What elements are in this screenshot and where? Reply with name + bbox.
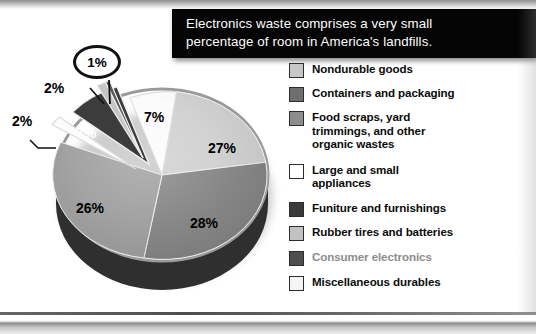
pie-label-food-scraps: 26% [76, 200, 104, 216]
legend-swatch-icon-rubber-tires-batteries [289, 226, 304, 241]
legend-swatch-icon-consumer-electronics [289, 251, 304, 266]
leader-line-miscellaneous-durables [30, 140, 56, 148]
legend-item-consumer-electronics: Consumer electronics [289, 250, 519, 266]
legend-label-nondurable-goods: Nondurable goods [312, 62, 413, 76]
pie-label-rubber-tires-batteries: 2% [44, 80, 64, 96]
legend-item-rubber-tires-batteries: Rubber tires and batteries [289, 225, 519, 241]
pie-callout-consumer-electronics: 1% [73, 45, 121, 79]
title-banner: Electronics waste comprises a very small… [172, 9, 536, 58]
page-bottom-edge-shadow [0, 320, 536, 334]
legend-label-containers-packaging: Containers and packaging [312, 86, 455, 100]
legend-swatch-icon-large-small-appliances [289, 164, 304, 179]
legend-item-nondurable-goods: Nondurable goods [289, 62, 519, 78]
pie-label-funiture-furnishings: 7% [76, 125, 96, 141]
pie-label-miscellaneous-durables: 2% [12, 113, 32, 129]
leader-line-consumer-electronics [109, 80, 110, 104]
banner-line-1: Electronics waste comprises a very small [186, 15, 516, 33]
legend-swatch-icon-miscellaneous-durables [289, 276, 304, 291]
chart-legend: Nondurable goods Containers and packagin… [289, 62, 519, 299]
legend-swatch-icon-nondurable-goods [289, 63, 304, 78]
legend-item-food-scraps: Food scraps, yard trimmings, and other o… [289, 110, 519, 151]
legend-item-containers-packaging: Containers and packaging [289, 86, 519, 102]
pie-label-large-small-appliances: 7% [144, 109, 164, 125]
pie-label-nondurable-goods: 27% [208, 140, 236, 156]
legend-item-funiture-furnishings: Funiture and furnishings [289, 201, 519, 217]
banner-text: Electronics waste comprises a very small… [186, 15, 516, 51]
legend-swatch-icon-funiture-furnishings [289, 202, 304, 217]
legend-label-large-small-appliances: Large and small appliances [312, 163, 432, 190]
legend-label-consumer-electronics: Consumer electronics [312, 250, 432, 264]
legend-label-funiture-furnishings: Funiture and furnishings [312, 201, 446, 215]
legend-item-large-small-appliances: Large and small appliances [289, 163, 519, 190]
legend-item-miscellaneous-durables: Miscellaneous durables [289, 275, 519, 291]
legend-label-rubber-tires-batteries: Rubber tires and batteries [312, 225, 453, 239]
page-bottom-rule [0, 312, 536, 315]
figure-page: 7% 27% 28% 26% 7% 2% 2% 1% Electronics w… [0, 0, 536, 334]
page-top-edge-shadow [0, 0, 536, 9]
pie-label-containers-packaging: 28% [190, 215, 218, 231]
banner-line-2: percentage of room in America's landfill… [186, 33, 516, 51]
legend-label-miscellaneous-durables: Miscellaneous durables [312, 275, 441, 289]
legend-swatch-icon-food-scraps [289, 111, 304, 126]
legend-swatch-icon-containers-packaging [289, 87, 304, 102]
legend-label-food-scraps: Food scraps, yard trimmings, and other o… [312, 110, 462, 151]
pie-chart: 7% 27% 28% 26% 7% 2% 2% 1% [12, 52, 292, 320]
